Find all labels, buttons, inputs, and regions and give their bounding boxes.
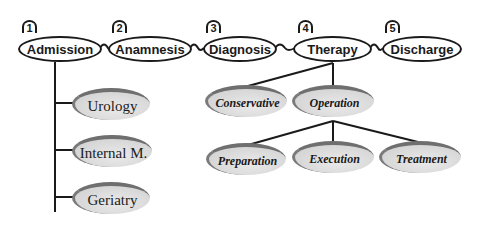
phase-admission: Admission xyxy=(18,36,102,62)
phase-discharge: Discharge xyxy=(382,36,462,62)
phase-number-1: 1 xyxy=(22,20,37,33)
phase-number-3: 3 xyxy=(206,20,221,33)
phase-diagnosis: Diagnosis xyxy=(203,36,277,62)
department-geriatry: Geriatry xyxy=(72,182,150,214)
phase-number-4: 4 xyxy=(298,20,313,33)
phase-anamnesis: Anamnesis xyxy=(108,36,192,62)
phase-therapy: Therapy xyxy=(293,36,372,62)
phase-number-5: 5 xyxy=(385,20,400,33)
phase-number-2: 2 xyxy=(112,20,127,33)
operation-treatment: Treatment xyxy=(379,141,461,173)
department-internal-medicine: Internal M. xyxy=(72,135,152,167)
operation-preparation: Preparation xyxy=(206,143,286,175)
therapy-operation: Operation xyxy=(292,85,374,117)
connector-anamnesis-diagnosis xyxy=(190,45,204,51)
department-urology: Urology xyxy=(72,88,150,120)
branch-treatment xyxy=(333,121,418,142)
connector-diagnosis-therapy xyxy=(275,45,295,51)
therapy-conservative: Conservative xyxy=(205,85,287,117)
operation-execution: Execution xyxy=(292,141,374,173)
branch-conservative xyxy=(248,63,333,86)
